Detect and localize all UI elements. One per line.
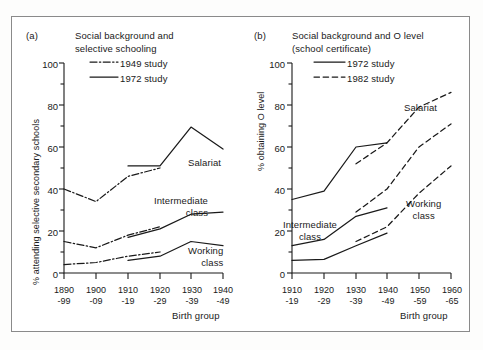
panel-b-x-ticks	[292, 273, 451, 279]
panel-b-plot	[252, 17, 471, 333]
panel-a-series-intermediate-1949	[64, 227, 160, 248]
panel-b-series-working-1982	[356, 166, 451, 242]
panel-b-series-salariat-1982	[356, 92, 451, 163]
panel-a-x-ticks	[64, 273, 223, 279]
panel-b-series-working-1972	[292, 233, 387, 260]
panel-a-plot	[12, 17, 252, 333]
panel-b-series-intermediate-1982	[356, 124, 451, 212]
panel-a-axis-lines	[64, 63, 223, 273]
figure-frame: (a) Social background and selective scho…	[11, 16, 470, 332]
panel-a-series-intermediate-1972	[128, 212, 223, 237]
chart-panel-a: (a) Social background and selective scho…	[12, 17, 252, 333]
panel-a-series-salariat-1972	[128, 127, 223, 166]
figure-page: (a) Social background and selective scho…	[0, 0, 483, 350]
panel-a-series-salariat-1949	[64, 168, 160, 202]
panel-b-series-intermediate-1972	[292, 208, 387, 246]
panel-b-y-ticks	[287, 63, 292, 273]
chart-panel-b: (b) Social background and O level (schoo…	[252, 17, 471, 333]
panel-a-series-working-1972	[128, 242, 223, 261]
panel-a-y-ticks	[59, 63, 64, 273]
panel-b-series-salariat-1972	[292, 143, 387, 200]
